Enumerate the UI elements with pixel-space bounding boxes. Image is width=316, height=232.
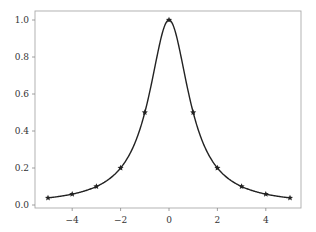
plot-background [35, 11, 301, 208]
line-chart: −4−2024 0.00.20.40.60.81.0 [0, 0, 316, 232]
y-tick-label: 0.2 [15, 163, 29, 173]
y-tick-label: 1.0 [15, 15, 30, 25]
y-tick-label: 0.0 [15, 200, 30, 210]
y-tick-label: 0.6 [15, 89, 30, 99]
x-tick-label: −4 [66, 215, 80, 225]
x-tick-label: −2 [114, 215, 127, 225]
x-tick-label: 2 [215, 215, 221, 225]
x-axis-ticks: −4−2024 [66, 208, 269, 225]
x-tick-label: 0 [166, 215, 172, 225]
x-tick-label: 4 [263, 215, 269, 225]
y-tick-label: 0.4 [15, 126, 30, 136]
y-axis-ticks: 0.00.20.40.60.81.0 [15, 15, 35, 210]
y-tick-label: 0.8 [15, 52, 30, 62]
